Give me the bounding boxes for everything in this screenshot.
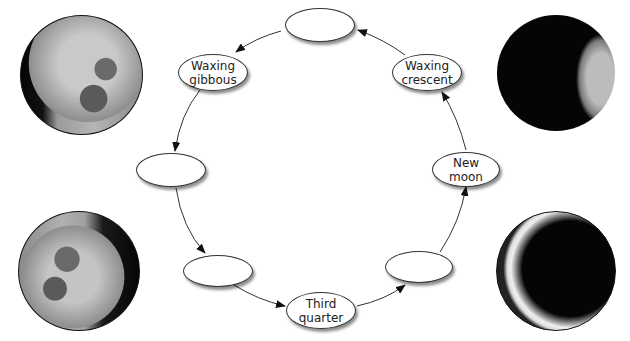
node-third-quarter: Third quarter	[286, 292, 356, 329]
arrow-bottomright-to-newmoon	[440, 187, 466, 252]
node-label-line2: moon	[449, 170, 483, 184]
node-label-line2: crescent	[401, 73, 452, 87]
node-bottom-left-blank[interactable]	[183, 255, 253, 287]
node-waxing-crescent: Waxing crescent	[392, 54, 462, 91]
node-label-line2: quarter	[299, 311, 344, 325]
node-label-line2: gibbous	[189, 73, 236, 87]
arrow-top-to-gibbous	[236, 31, 281, 52]
moon-photo-waning-gibbous	[18, 211, 140, 331]
arrow-newmoon-to-crescent	[442, 92, 466, 150]
arrow-gibbous-to-left	[175, 90, 200, 151]
node-label-line1: New	[453, 156, 479, 170]
arrow-left-to-bottomleft	[176, 188, 205, 253]
arrow-bottomleft-to-thirdquarter	[234, 285, 285, 306]
node-new-moon: New moon	[432, 152, 500, 187]
node-label-line1: Waxing	[405, 59, 449, 73]
node-bottom-right-blank[interactable]	[385, 251, 453, 283]
arrow-crescent-to-top	[358, 30, 405, 55]
node-top-blank[interactable]	[285, 8, 355, 42]
moon-photo-waxing-gibbous	[20, 15, 143, 135]
moon-photo-thin-crescent	[496, 211, 616, 331]
node-label-line1: Third	[306, 297, 337, 311]
arrow-thirdquarter-to-bottomright	[357, 285, 405, 306]
node-waxing-gibbous: Waxing gibbous	[178, 54, 248, 91]
node-label-line1: Waxing	[191, 59, 235, 73]
moon-photo-waning-crescent	[497, 15, 615, 131]
node-left-blank[interactable]	[136, 153, 206, 187]
